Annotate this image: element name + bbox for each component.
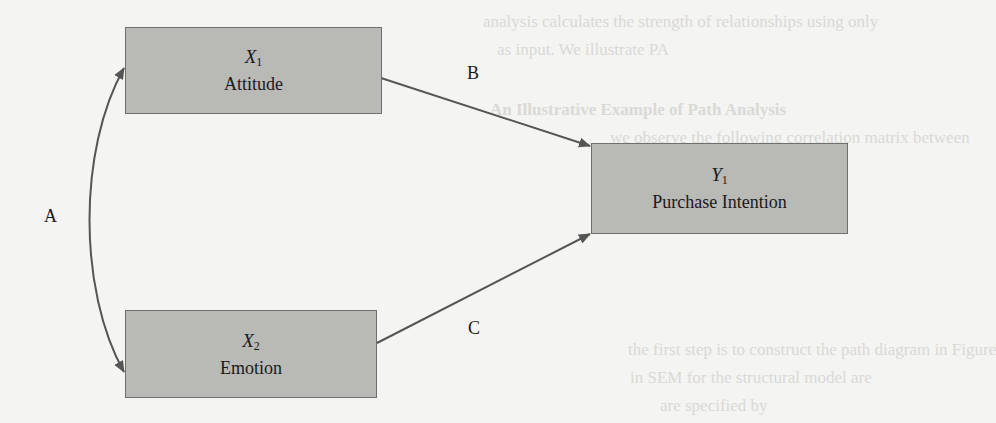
edge-c-label: C	[468, 318, 480, 339]
node-symbol: Y1	[711, 164, 728, 191]
node-label: Attitude	[224, 73, 283, 95]
node-y1-purchase-intention: Y1 Purchase Intention	[591, 143, 848, 234]
edge-a-arrow	[90, 68, 125, 372]
node-x2-emotion: X2 Emotion	[125, 310, 377, 398]
edge-b-arrow	[381, 78, 590, 146]
node-symbol: X2	[242, 330, 260, 357]
node-label: Emotion	[220, 357, 282, 379]
edge-a-label: A	[44, 206, 57, 227]
node-label: Purchase Intention	[652, 191, 786, 213]
node-symbol: X1	[245, 46, 263, 73]
edge-b-label: B	[467, 63, 479, 84]
edge-c-arrow	[377, 234, 590, 343]
node-x1-attitude: X1 Attitude	[125, 27, 382, 114]
